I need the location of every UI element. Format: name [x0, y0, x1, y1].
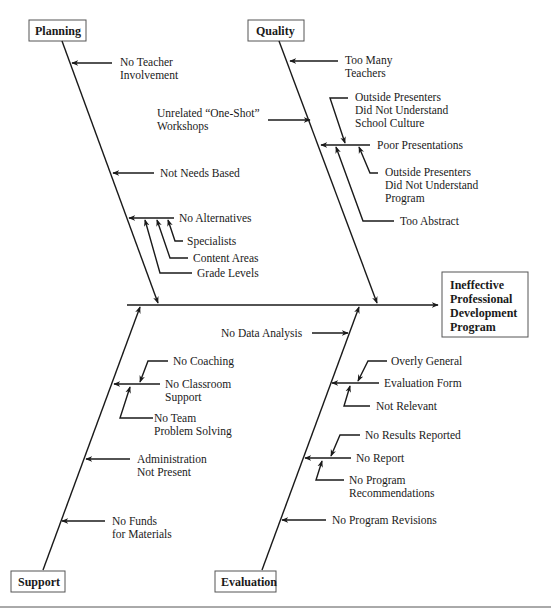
category-label-support: Support — [18, 575, 60, 589]
svg-text:Unrelated “One-Shot”: Unrelated “One-Shot” — [157, 107, 260, 119]
subcause-grade-levels: Grade Levels — [145, 220, 259, 279]
category-planning: Planning — [29, 20, 86, 41]
svg-text:Evaluation Form: Evaluation Form — [384, 377, 462, 389]
category-label-planning: Planning — [35, 24, 81, 38]
cause-evaluation-form: Evaluation Form — [332, 377, 462, 389]
svg-text:Workshops: Workshops — [157, 120, 209, 133]
effect-line-3: Development — [450, 306, 517, 320]
svg-text:No Team: No Team — [154, 412, 196, 424]
svg-text:Grade Levels: Grade Levels — [197, 267, 259, 279]
subcause-presenters-program: Outside Presenters Did Not Understand Pr… — [359, 147, 479, 205]
cause-administration-not-present: Administration Not Present — [86, 453, 207, 478]
svg-text:Problem Solving: Problem Solving — [154, 425, 232, 438]
svg-text:Not Needs Based: Not Needs Based — [160, 167, 240, 179]
cause-not-needs-based: Not Needs Based — [113, 167, 240, 179]
cause-too-many-teachers: Too Many Teachers — [290, 54, 393, 79]
cause-no-teacher-involvement: No Teacher Involvement — [72, 56, 179, 81]
category-label-quality: Quality — [256, 24, 295, 38]
cause-no-funds: No Funds for Materials — [62, 515, 172, 540]
svg-text:Not Relevant: Not Relevant — [376, 400, 438, 412]
svg-text:Recommendations: Recommendations — [349, 487, 435, 499]
svg-text:Content Areas: Content Areas — [193, 252, 259, 264]
svg-text:Administration: Administration — [137, 453, 207, 465]
subcause-not-relevant: Not Relevant — [344, 386, 438, 412]
svg-text:Overly General: Overly General — [391, 355, 462, 368]
evaluation-bone — [262, 307, 359, 570]
category-quality: Quality — [248, 20, 304, 41]
effect-line-4: Program — [450, 320, 496, 334]
cause-no-alternatives: No Alternatives — [129, 212, 252, 224]
effect-box: Ineffective Professional Development Pro… — [442, 272, 528, 337]
effect-line-2: Professional — [450, 292, 513, 306]
svg-text:Outside Presenters: Outside Presenters — [355, 91, 441, 103]
svg-text:No Data Analysis: No Data Analysis — [221, 327, 303, 340]
svg-text:No Funds: No Funds — [112, 515, 158, 527]
svg-text:Outside Presenters: Outside Presenters — [385, 166, 471, 178]
cause-no-classroom-support: No Classroom Support — [114, 378, 231, 404]
subcause-specialists: Specialists — [168, 220, 237, 248]
cause-no-report: No Report — [305, 452, 405, 465]
svg-text:Did Not Understand: Did Not Understand — [385, 179, 479, 191]
svg-text:Teachers: Teachers — [345, 67, 386, 79]
svg-text:No Results Reported: No Results Reported — [365, 429, 461, 442]
subcause-presenters-culture: Outside Presenters Did Not Understand Sc… — [330, 91, 449, 143]
svg-text:Too Many: Too Many — [345, 54, 393, 67]
svg-text:for Materials: for Materials — [112, 528, 172, 540]
svg-text:Involvement: Involvement — [120, 69, 179, 81]
cause-no-data-analysis: No Data Analysis — [221, 327, 348, 340]
svg-text:Poor Presentations: Poor Presentations — [377, 139, 463, 151]
category-support: Support — [11, 571, 65, 592]
effect-line-1: Ineffective — [450, 278, 505, 292]
svg-text:No Classroom: No Classroom — [165, 378, 231, 390]
svg-text:Not Present: Not Present — [137, 466, 192, 478]
svg-text:School Culture: School Culture — [355, 117, 424, 129]
svg-text:No Program Revisions: No Program Revisions — [332, 514, 437, 527]
fishbone-diagram: Ineffective Professional Development Pro… — [0, 0, 551, 616]
cause-poor-presentations: Poor Presentations — [321, 139, 463, 151]
quality-bone — [279, 41, 377, 303]
svg-text:No Coaching: No Coaching — [173, 355, 234, 368]
category-label-evaluation: Evaluation — [221, 575, 277, 589]
category-evaluation: Evaluation — [215, 571, 277, 592]
svg-text:Support: Support — [165, 391, 202, 404]
svg-text:Did Not Understand: Did Not Understand — [355, 104, 449, 116]
svg-text:No Alternatives: No Alternatives — [179, 212, 252, 224]
svg-text:No Teacher: No Teacher — [120, 56, 173, 68]
cause-no-program-revisions: No Program Revisions — [282, 514, 437, 527]
svg-text:No Report: No Report — [356, 452, 405, 465]
cause-unrelated-workshops: Unrelated “One-Shot” Workshops — [157, 107, 310, 133]
svg-text:Too Abstract: Too Abstract — [400, 215, 460, 227]
svg-text:No Program: No Program — [349, 474, 406, 487]
svg-text:Program: Program — [385, 192, 425, 205]
svg-text:Specialists: Specialists — [187, 235, 237, 248]
subcause-no-program-recommendations: No Program Recommendations — [316, 461, 435, 499]
